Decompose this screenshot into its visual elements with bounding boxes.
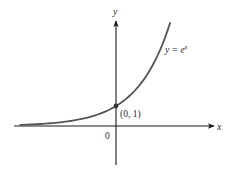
function-label-base: y = e <box>164 45 185 55</box>
exponential-curve <box>20 23 170 125</box>
y-axis-label: y <box>112 6 118 17</box>
exponential-graph: y x 0 (0, 1) y = ex <box>0 0 236 175</box>
function-label-exponent: x <box>184 43 188 50</box>
x-axis-label: x <box>216 121 222 132</box>
point-0-1-marker <box>114 104 119 109</box>
point-label: (0, 1) <box>120 109 141 120</box>
origin-label: 0 <box>105 131 110 141</box>
function-label: y = ex <box>164 43 188 55</box>
